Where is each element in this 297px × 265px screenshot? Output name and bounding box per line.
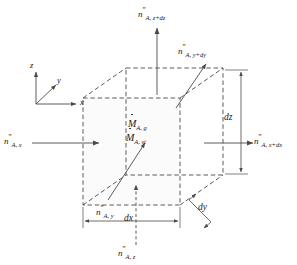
- species-control-volume-figure: n″A, z+dz n″A, y+dy n″A, x n″A, x+dx n″A…: [0, 0, 297, 265]
- flux-label-right: n″A, x+dx: [254, 134, 282, 148]
- dimension-label-dz: dz: [224, 113, 232, 123]
- flux-label-back: n″A, y+dy: [178, 44, 206, 58]
- coordinate-axes: [36, 72, 76, 104]
- dimension-label-dx: dx: [124, 214, 133, 224]
- overdot-generation: [131, 114, 133, 116]
- flux-label-bottom: n″A, z: [118, 246, 135, 260]
- storage-term-label: MA, st: [126, 133, 146, 146]
- flux-label-front: n″A, y: [96, 205, 114, 219]
- flux-arrow-back: [176, 64, 206, 108]
- axis-label-z: z: [30, 61, 33, 70]
- axis-label-y: y: [57, 76, 61, 85]
- dimension-label-dy: dy: [198, 203, 207, 213]
- flux-label-top: n″A, z+dz: [138, 7, 165, 21]
- flux-label-left: n″A, x: [4, 134, 22, 148]
- overdot-storage: [129, 128, 131, 130]
- diagram-canvas: [0, 0, 297, 265]
- generation-term-label: MA, g: [128, 119, 147, 132]
- axis-label-x: x: [80, 98, 84, 107]
